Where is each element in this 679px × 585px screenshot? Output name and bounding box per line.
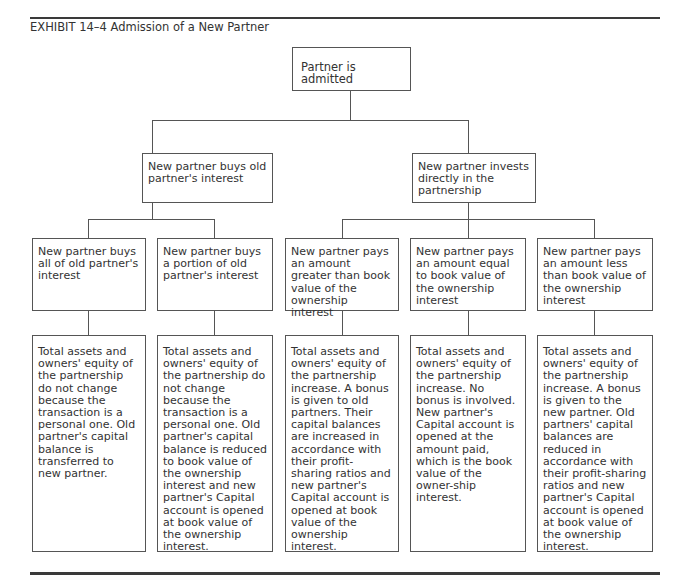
result-node-buys-portion: Total assets and owners' equity of the p… <box>157 335 273 552</box>
result-node-pays-equal: Total assets and owners' equity of the p… <box>410 335 526 552</box>
top-rule <box>30 17 660 19</box>
result-node-pays-less: Total assets and owners' equity of the p… <box>537 335 653 552</box>
case-node-pays-equal: New partner pays an amount equal to book… <box>410 238 526 311</box>
case-node-pays-greater: New partner pays an amount greater than … <box>285 238 399 311</box>
case-node-buys-portion: New partner buys a portion of old partne… <box>157 238 273 311</box>
connector-result-0-1 <box>214 311 215 335</box>
connector-to-branch-0 <box>152 120 153 153</box>
root-node-partner-admitted: Partner is admitted <box>292 47 411 91</box>
case-node-buys-all: New partner buys all of old partner's in… <box>32 238 146 311</box>
result-node-pays-greater: Total assets and owners' equity of the p… <box>285 335 399 552</box>
connector-case-0-0 <box>88 219 89 238</box>
result-node-buys-all: Total assets and owners' equity of the p… <box>32 335 146 552</box>
connector-to-branch-1 <box>468 120 469 153</box>
case-node-pays-less: New partner pays an amount less than boo… <box>537 238 653 311</box>
connector-branch-1-down <box>468 203 469 219</box>
connector-result-1-2 <box>594 311 595 335</box>
connector-case-1-2 <box>594 219 595 238</box>
connector-case-1-1 <box>468 219 469 238</box>
connector-branch-0-down <box>152 203 153 219</box>
connector-result-1-1 <box>468 311 469 335</box>
connector-branch-0-horizontal <box>88 219 215 220</box>
connector-case-0-1 <box>214 219 215 238</box>
branch-node-invests-directly: New partner invests directly in the part… <box>412 153 536 203</box>
branch-node-buys-interest: New partner buys old partner's interest <box>142 153 273 203</box>
exhibit-title: EXHIBIT 14–4 Admission of a New Partner <box>30 20 269 34</box>
connector-case-1-0 <box>342 219 343 238</box>
connector-root-down <box>350 91 351 120</box>
bottom-rule <box>30 572 660 575</box>
connector-result-0-0 <box>88 311 89 335</box>
connector-result-1-0 <box>342 311 343 335</box>
connector-level2-horizontal <box>152 120 469 121</box>
